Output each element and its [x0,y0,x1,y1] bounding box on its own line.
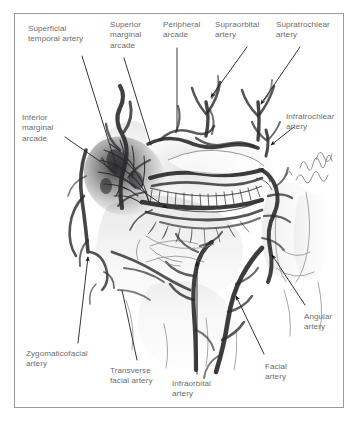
label-facial-artery: Facial artery [265,362,287,383]
label-transverse-facial-artery: Transverse facial artery [110,366,152,387]
sketch-hatching [286,152,332,183]
label-superior-marginal-arcade: Superior marginal arcade [110,20,141,51]
label-infratrochlear-artery: Infratrochlear artery [286,112,334,133]
label-peripheral-arcade: Peripheral arcade [163,20,200,41]
label-infraorbital-artery: Infraorbital artery [172,379,211,400]
label-zygomaticofacial-artery: Zygomaticofacial artery [26,349,88,370]
leader-zygomaticofacial [78,257,88,343]
label-angular-artery: Angular artery [304,312,332,333]
label-supraorbital-artery: Supraorbital artery [215,20,259,41]
label-inferior-marginal-arcade: Inferior marginal arcade [22,113,53,144]
label-supratrochlear-artery: Supratrochlear artery [276,20,330,41]
leader-supratrochlear [261,47,300,104]
supraorbital-artery [192,76,220,136]
figure-arterial-supply-eyelids: Superficial temporal arterySuperior marg… [0,0,357,423]
label-superficial-temporal-artery: Superficial temporal artery [28,24,83,45]
